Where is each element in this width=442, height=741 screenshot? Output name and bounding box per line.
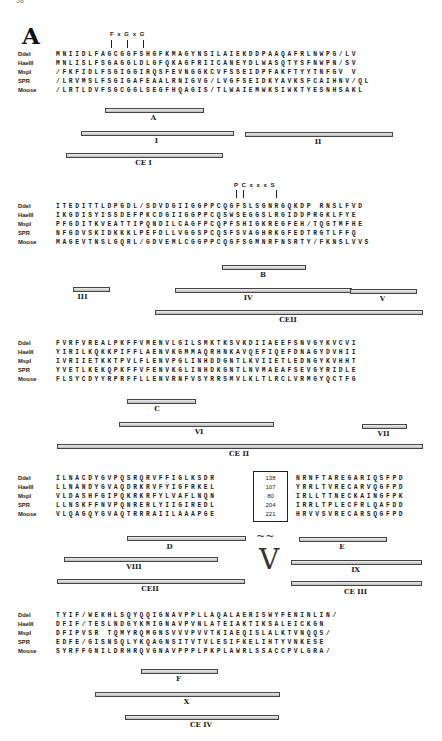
sequence: PFGDITKVEATTIPQNDILCAGFPCQPFSHIGKREGFEH/… (56, 220, 365, 229)
region-label: I (81, 137, 232, 145)
species-label: DdeI (18, 611, 58, 620)
species-label: SPR (18, 229, 58, 238)
gap-length: 138 (254, 474, 287, 483)
sequence-after-gap: YRRLTVRECARVQGFPD (296, 483, 405, 492)
sequence: /FKFIDLFSGIGGIRQSFEVNGGKCVFSSEIDPFAKFTYY… (56, 68, 358, 77)
region-label: D (127, 543, 212, 551)
sequence: ITEDITTLDPGDL/SDVDGIIGGPPCQGFSLSGNRGQKDP… (56, 202, 365, 211)
sequence: MAGEVTNSLGQRL/GDVEMLCGGPPCQGFSGMNRFNSRTY… (56, 238, 371, 247)
region-label: II (245, 138, 391, 146)
species-label: Mouse (18, 510, 58, 519)
species-label: SPR (18, 366, 58, 375)
sequence: IVRIIETKKTPVLFLENVPGLINHDDGNTLKVIIETLEDN… (56, 357, 358, 366)
region-label: B (222, 271, 304, 279)
species-label: Mouse (18, 86, 58, 95)
species-label: DdeI (18, 339, 58, 348)
region-label: VIII (64, 563, 204, 571)
motif-tick (243, 190, 244, 198)
sequence-after-gap: IRLLTTNECKAINGFPK (296, 492, 405, 501)
sequence: MNLISLFSGAGGLDLGFQKAGFRIICANEYDLWASQTYSF… (56, 59, 358, 68)
region-bar-d (127, 536, 246, 541)
region-bar-iv (175, 288, 352, 293)
species-label: MspI (18, 357, 58, 366)
sequence: VLQAGQYGVAQTRRRAIILAAAPGE (56, 510, 217, 519)
sequence: FLSYCDYYRPRFFLLENVRNFVSYRRSMVLKLTLRCLVRM… (56, 375, 358, 384)
species-label: Mouse (18, 238, 58, 247)
sequence: NFGDVSKIDKKKLPEFDLLVGGSPCQSFSVAGHRKGFEDT… (56, 229, 358, 238)
gap-length: 80 (254, 492, 287, 501)
gap-length: 221 (254, 510, 287, 519)
sequence: DFIF/TESLNDGYKMIGNAVPVNLATEIAKTIKSALEICK… (56, 620, 326, 629)
species-label: MspI (18, 629, 58, 638)
sequence: VLDASHFGIPQKRKRFYLVAFLNQN (56, 492, 217, 501)
region-label: V (350, 295, 415, 303)
region-label: CE II (57, 450, 421, 458)
region-bar-c (127, 399, 196, 404)
motif-tick (276, 190, 277, 198)
species-label: SPR (18, 501, 58, 510)
region-label: IX (291, 566, 420, 574)
sequence: TYIF/WEKHLSQYQQIGNAVPPLLAQALAERISWYFENIN… (56, 611, 339, 620)
region-label: IV (175, 294, 321, 302)
gap-tilde: ~~ (256, 530, 274, 543)
species-label: MspI (18, 492, 58, 501)
gap-length: 204 (254, 501, 287, 510)
sequence: MNIIDLFAGCGGFSHGFKMAGYNSILAIEKDDPAAQAFRL… (56, 50, 358, 59)
sequence: ILNACDYGVPQSRQRVFFIGLKSDR (56, 474, 217, 483)
region-label: E (299, 543, 385, 551)
region-label: A (105, 114, 202, 122)
sequence: FVRFVREALPKFFVMENVLGILSMKTKSVKDIIAEEFSNV… (56, 339, 358, 348)
sequence: /LRTLDVFSGCGGLSEGFHQAGIS/TLWAIEMWKSIWKTY… (56, 86, 365, 95)
region-label: X (95, 698, 278, 706)
sequence: IKGDISYISSDEFPKCDGIIGGPPCQSWSEGGSLRGIDDP… (56, 211, 358, 220)
species-label: DdeI (18, 50, 58, 59)
species-label: HaeIII (18, 620, 58, 629)
sequence: SYRFFGNILDRHRQVGNAVPPPLPKPLAWRLSSACCPVLG… (56, 647, 332, 656)
region-label: VI (119, 428, 279, 436)
sequence-after-gap: NRNFTAREGARIQSFPD (296, 474, 405, 483)
species-label: Mouse (18, 647, 58, 656)
species-label: HaeIII (18, 211, 58, 220)
region-label: CE IV (125, 721, 277, 729)
region-label: CE III (291, 588, 420, 596)
motif-tick (143, 40, 144, 48)
sequence: YIRILKQKKPIFFLAENVKGMMAQRHNKAVQEFIQEFDNA… (56, 348, 358, 357)
species-label: DdeI (18, 474, 58, 483)
gap-length: 107 (254, 483, 287, 492)
sequence-after-gap: IRRLTPLECFRLQAFDD (296, 501, 405, 510)
motif-tick (111, 40, 112, 48)
species-label: HaeIII (18, 483, 58, 492)
region-label: VII (362, 430, 405, 438)
sequence: LLNANDYGVAQDRKRVFYIGFRKEL (56, 483, 217, 492)
sequence: /LRVMSLFSGIGAFEAALRNIGVG/LVGFSEIDKYAVKSF… (56, 77, 371, 86)
species-label: HaeIII (18, 59, 58, 68)
species-label: MspI (18, 220, 58, 229)
motif-fxgxg: F x G x G (110, 31, 145, 37)
sequence: EDFE/GISNSQLYKQAGNSITVTVLESIFKELIHTYVNKE… (56, 638, 326, 647)
motif-tick (236, 190, 237, 198)
region-label: C (127, 405, 187, 413)
sequence: LLNSKFFNVPQNRERLYIIGIREDL (56, 501, 217, 510)
region-label: F (141, 675, 216, 683)
species-label: SPR (18, 77, 58, 86)
region-label: III (70, 293, 95, 301)
species-label: HaeIII (18, 348, 58, 357)
motif-pcxxxs: P C x x x S (234, 182, 276, 188)
sequence: YVETLKEKQPKFFVFENVKGLINHDKGNTLNVMAEAFSEV… (56, 366, 358, 375)
species-label: DdeI (18, 202, 58, 211)
page-number: 58 (16, 0, 24, 4)
gap-length-box: 138 107 80 204 221 (253, 471, 288, 522)
variable-region-symbol: V (259, 546, 279, 574)
region-label: CE I (66, 159, 221, 167)
species-label: Mouse (18, 375, 58, 384)
species-label: MspI (18, 68, 58, 77)
region-label: CEII (155, 316, 421, 324)
sequence-after-gap: HRVVSVRECARSQGFPD (296, 510, 405, 519)
sequence: DFIPVSR TQMYRQMGNSVVVPVVTKIAEQISLALKTVNQ… (56, 629, 332, 638)
region-label: CEII (57, 585, 243, 593)
motif-tick (127, 40, 128, 48)
region-bar-ce-iii (291, 581, 422, 586)
panel-letter: A (22, 24, 40, 47)
species-label: SPR (18, 638, 58, 647)
